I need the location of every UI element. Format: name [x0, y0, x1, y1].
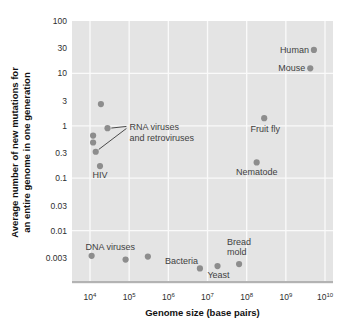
y-tick-label-6: 0.1 [55, 173, 67, 183]
label-nematode: Nematode [236, 167, 278, 177]
label-hiv: HIV [92, 170, 107, 180]
y-tick-label-9: 0.003 [46, 253, 68, 263]
data-point-rna-virus-3 [90, 133, 96, 139]
rna-viruses-annotation-line1: RNA viruses [129, 122, 179, 132]
x-axis-title: Genome size (base pairs) [72, 307, 333, 318]
x-tick-label-4: 108 [240, 292, 253, 303]
data-point-rna-virus-1 [98, 101, 104, 107]
mutation-rate-vs-genome-size-figure: 10410510610710810910101003010310.30.10.0… [0, 0, 340, 334]
data-point-rna-virus-5 [93, 149, 99, 155]
y-tick-label-8: 0.01 [50, 226, 67, 236]
label-fruit-fly: Fruit fly [250, 124, 280, 134]
x-tick-label-0: 104 [84, 292, 97, 303]
data-point-human [311, 47, 317, 53]
label-bread-mold-line2: mold [227, 247, 247, 257]
y-tick-label-3: 3 [62, 96, 67, 106]
plot-area: 10410510610710810910101003010310.30.10.0… [0, 0, 340, 334]
x-axis-line [72, 281, 333, 283]
y-axis-title-line2: an entire genome in one generation [20, 72, 31, 232]
data-point-rna-virus-2 [104, 125, 110, 131]
data-point-bread-mold [236, 261, 242, 267]
label-human: Human [280, 45, 309, 55]
y-axis-title-line1: Average number of new mutations for [9, 67, 20, 238]
y-tick-label-0: 100 [53, 16, 67, 26]
y-tick-label-4: 1 [62, 121, 67, 131]
data-point-yeast [214, 263, 220, 269]
data-point-rna-virus-4 [90, 139, 96, 145]
x-tick-label-1: 105 [123, 292, 136, 303]
y-tick-label-2: 10 [58, 68, 68, 78]
data-point-hiv [97, 163, 103, 169]
x-tick-label-2: 106 [162, 292, 175, 303]
label-yeast: Yeast [207, 270, 230, 280]
data-point-nematode [254, 159, 260, 165]
y-axis-title: Average number of new mutations for an e… [9, 22, 32, 284]
data-point-dna-virus-1 [89, 253, 95, 259]
label-bread-mold-line1: Bread [227, 237, 251, 247]
data-point-dna-virus-3 [145, 253, 151, 259]
data-point-dna-virus-2 [122, 256, 128, 262]
label-bacteria: Bacteria [165, 256, 198, 266]
data-point-fruit-fly [261, 115, 267, 121]
data-point-mouse [307, 65, 313, 71]
label-dna-virus-1: DNA viruses [86, 242, 136, 252]
x-tick-label-5: 109 [279, 292, 292, 303]
rna-viruses-annotation-line2: and retroviruses [129, 133, 194, 143]
x-tick-label-3: 107 [201, 292, 214, 303]
label-mouse: Mouse [278, 63, 305, 73]
y-tick-label-7: 0.03 [50, 201, 67, 211]
x-tick-label-6: 1010 [317, 292, 334, 303]
y-tick-label-5: 0.3 [55, 148, 67, 158]
y-tick-label-1: 30 [58, 43, 68, 53]
